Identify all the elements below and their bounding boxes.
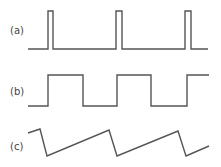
panel-c-label: (c) xyxy=(10,141,23,152)
panel-a-label: (a) xyxy=(10,25,24,36)
waveform-figure: (a) (b) (c) xyxy=(0,0,221,167)
sawtooth-waveform xyxy=(28,129,209,156)
panel-c: (c) xyxy=(10,129,209,156)
panel-a: (a) xyxy=(10,11,208,49)
panel-b: (b) xyxy=(10,75,209,106)
waveform-diagram: (a) (b) (c) xyxy=(0,0,221,167)
pulse-train-waveform xyxy=(28,11,208,49)
panel-b-label: (b) xyxy=(10,86,24,97)
square-waveform xyxy=(28,75,209,106)
